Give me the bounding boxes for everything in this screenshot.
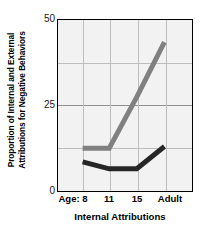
chart-figure: Proportion of Internal and External Attr… bbox=[0, 0, 200, 237]
y-tick-label-50: 50 bbox=[33, 14, 55, 24]
plot-area bbox=[57, 19, 193, 192]
x-tick-label-11: 11 bbox=[104, 193, 114, 204]
y-axis-ticks: 50 25 0 bbox=[31, 0, 55, 200]
x-tick-label-15: 15 bbox=[132, 193, 143, 204]
series-line-external bbox=[83, 42, 165, 148]
x-tick-label-age8: Age: 8 bbox=[58, 193, 87, 204]
x-axis-title: Internal Attributions bbox=[40, 211, 200, 222]
y-tick-label-25: 25 bbox=[33, 100, 55, 110]
y-axis-title: Proportion of Internal and External Attr… bbox=[0, 0, 34, 200]
series-lines bbox=[58, 20, 192, 191]
x-tick-label-adult: Adult bbox=[158, 193, 182, 204]
y-axis-title-line-2: Attributions for Negative Behaviors bbox=[17, 31, 28, 169]
y-axis-title-line-1: Proportion of Internal and External bbox=[6, 33, 17, 168]
x-axis-ticks: Age: 8 11 15 Adult bbox=[0, 193, 200, 207]
